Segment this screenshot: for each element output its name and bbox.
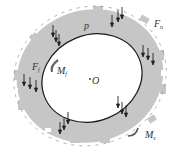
label-pressure: p xyxy=(83,20,89,31)
label-outer-moment: Ms xyxy=(144,129,156,141)
label-center: O xyxy=(92,75,99,86)
center-point xyxy=(89,78,91,80)
label-normal-force: Fn xyxy=(153,18,163,30)
ring-diagram: p Fn Ff Mf O Ms xyxy=(0,0,180,159)
